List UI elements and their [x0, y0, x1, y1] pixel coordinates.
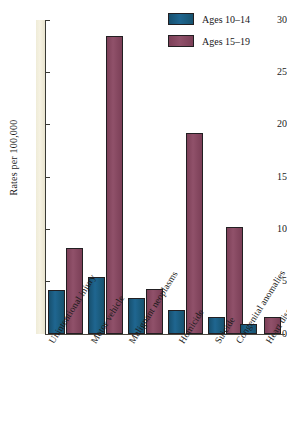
legend-item-ages-10-14: Ages 10–14 [168, 13, 250, 25]
bars-layer [0, 0, 287, 421]
legend-swatch-icon-ages-10-14 [168, 13, 194, 25]
bar-motor-vehicle-ages-15-19 [106, 36, 123, 334]
bar-homicide-ages-15-19 [186, 133, 203, 334]
legend-label-ages-15-19: Ages 15–19 [202, 36, 250, 47]
bar-chart: Rates per 100,000 0 5 10 15 20 25 30 [0, 0, 287, 421]
legend: Ages 10–14 Ages 15–19 [168, 13, 250, 57]
legend-label-ages-10-14: Ages 10–14 [202, 14, 250, 25]
legend-swatch-icon-ages-15-19 [168, 35, 194, 47]
legend-item-ages-15-19: Ages 15–19 [168, 35, 250, 47]
